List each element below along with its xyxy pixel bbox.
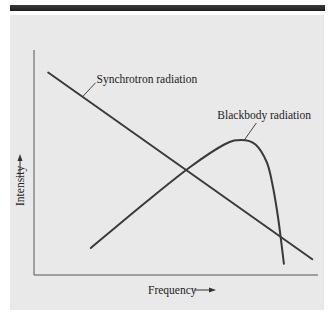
y-arrowhead-icon (18, 154, 23, 161)
synchrotron-label: Synchrotron radiation (97, 73, 198, 86)
x-arrowhead-icon (209, 288, 216, 293)
series-line-blackbody-radiation (91, 140, 284, 264)
blackbody-label: Blackbody radiation (217, 109, 311, 122)
synchrotron-leader-line (83, 83, 96, 97)
blackbody-leader-line (244, 123, 256, 140)
x-axis-label: Frequency (148, 284, 197, 297)
series-line-synchrotron-radiation (48, 73, 312, 260)
chart-svg: Synchrotron radiation Blackbody radiatio… (0, 0, 336, 321)
